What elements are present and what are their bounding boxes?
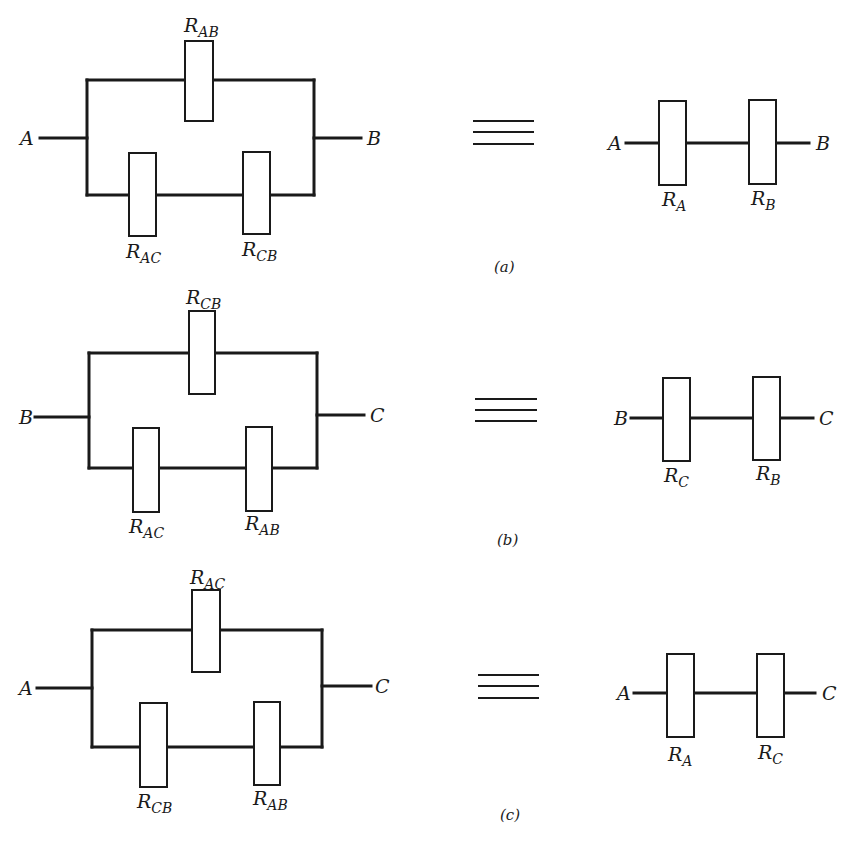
resistor-label: RCB bbox=[136, 790, 172, 816]
circuit-figure: ABRABRACRCBABRARB(a)BCRCBRACRABBCRCRB(b)… bbox=[0, 0, 854, 846]
terminal-label-B: B bbox=[366, 127, 381, 149]
terminal-label-C: C bbox=[819, 407, 834, 429]
panel-b: BCRCBRACRABBCRCRB(b) bbox=[18, 286, 834, 549]
resistor-icon bbox=[192, 590, 220, 672]
resistor-label: RAC bbox=[189, 566, 225, 592]
resistor-RCB: RCB bbox=[241, 152, 277, 264]
resistor-RAC: RAC bbox=[125, 153, 161, 266]
resistor-icon bbox=[254, 702, 280, 785]
series-network: BCRCRB bbox=[613, 377, 834, 490]
terminal-label-C: C bbox=[370, 404, 385, 426]
resistor-icon bbox=[129, 153, 156, 236]
resistor-label: RC bbox=[663, 464, 689, 490]
resistor-icon bbox=[185, 41, 213, 121]
terminal-label-C: C bbox=[375, 675, 390, 697]
resistor-label: RB bbox=[755, 462, 781, 488]
resistor-label: RCB bbox=[185, 286, 221, 312]
delta-wye-resistor-diagram: ABRABRACRCBABRARB(a)BCRCBRACRABBCRCRB(b)… bbox=[0, 0, 854, 846]
resistor-icon bbox=[659, 101, 686, 185]
resistor-label: RAC bbox=[128, 515, 164, 541]
delta-network: ABRABRACRCB bbox=[18, 14, 381, 266]
terminal-label-A: A bbox=[17, 677, 33, 699]
terminal-label-A: A bbox=[615, 682, 631, 704]
resistor-RC: RC bbox=[663, 378, 690, 490]
equivalence-icon bbox=[475, 399, 537, 421]
resistor-RAC: RAC bbox=[128, 428, 164, 541]
resistor-RAB: RAB bbox=[183, 14, 219, 121]
delta-network: ACRACRCBRAB bbox=[17, 566, 390, 816]
terminal-label-A: A bbox=[606, 132, 622, 154]
resistor-RAC: RAC bbox=[189, 566, 225, 672]
panel-caption: (c) bbox=[500, 806, 520, 824]
resistor-icon bbox=[663, 378, 690, 461]
resistor-icon bbox=[133, 428, 159, 512]
resistor-icon bbox=[667, 654, 694, 737]
resistor-RAB: RAB bbox=[252, 702, 288, 813]
resistor-RC: RC bbox=[757, 654, 784, 767]
resistor-label: RAB bbox=[183, 14, 219, 40]
resistor-icon bbox=[140, 703, 167, 787]
terminal-label-C: C bbox=[822, 682, 837, 704]
resistor-RAB: RAB bbox=[244, 427, 280, 538]
series-network: ABRARB bbox=[606, 100, 830, 214]
panel-caption: (a) bbox=[494, 258, 515, 276]
terminal-label-B: B bbox=[613, 407, 628, 429]
resistor-label: RAB bbox=[244, 512, 280, 538]
terminal-label-B: B bbox=[815, 132, 830, 154]
equivalence-icon bbox=[478, 675, 539, 698]
resistor-RB: RB bbox=[753, 377, 781, 488]
resistor-label: RCB bbox=[241, 238, 277, 264]
resistor-RA: RA bbox=[667, 654, 694, 769]
resistor-RCB: RCB bbox=[136, 703, 172, 816]
panel-a: ABRABRACRCBABRARB(a) bbox=[18, 14, 830, 276]
resistor-icon bbox=[753, 377, 780, 460]
resistor-label: RB bbox=[750, 187, 776, 213]
delta-network: BCRCBRACRAB bbox=[18, 286, 385, 541]
panel-c: ACRACRCBRABACRARC(c) bbox=[17, 566, 837, 824]
series-network: ACRARC bbox=[615, 654, 837, 769]
resistor-icon bbox=[243, 152, 270, 234]
equivalence-icon bbox=[473, 121, 534, 144]
resistor-label: RA bbox=[667, 743, 692, 769]
terminal-label-A: A bbox=[18, 127, 34, 149]
panel-caption: (b) bbox=[497, 531, 518, 549]
resistor-icon bbox=[757, 654, 784, 737]
resistor-label: RC bbox=[757, 741, 783, 767]
resistor-icon bbox=[246, 427, 272, 511]
resistor-RA: RA bbox=[659, 101, 686, 214]
resistor-label: RAB bbox=[252, 787, 288, 813]
terminal-label-B: B bbox=[18, 406, 33, 428]
resistor-icon bbox=[749, 100, 776, 184]
resistor-icon bbox=[189, 311, 215, 394]
resistor-label: RAC bbox=[125, 240, 161, 266]
resistor-RB: RB bbox=[749, 100, 776, 213]
resistor-label: RA bbox=[661, 188, 686, 214]
resistor-RCB: RCB bbox=[185, 286, 221, 394]
